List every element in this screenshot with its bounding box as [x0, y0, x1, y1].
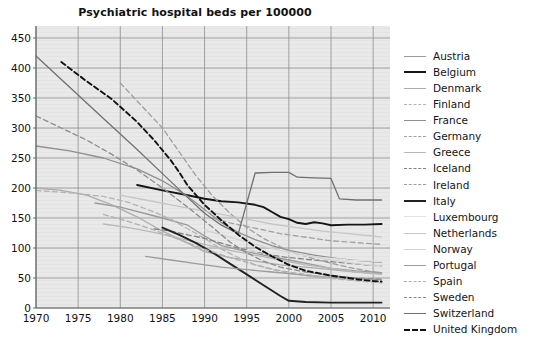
legend-item-label: Ireland: [433, 180, 469, 191]
legend-item-label: United Kingdom: [433, 324, 517, 335]
legend-item-finland[interactable]: Finland: [404, 96, 541, 112]
legend-swatch-icon: [404, 281, 426, 282]
legend-item-label: Italy: [433, 196, 456, 207]
legend-item-luxembourg[interactable]: Luxembourg: [404, 209, 541, 225]
legend-swatch-icon: [404, 329, 426, 331]
legend-swatch-icon: [404, 313, 426, 314]
legend-item-sweden[interactable]: Sweden: [404, 289, 541, 305]
legend-item-denmark[interactable]: Denmark: [404, 80, 541, 96]
legend-item-italy[interactable]: Italy: [404, 193, 541, 209]
y-tick-label: 200: [11, 182, 31, 194]
legend-item-austria[interactable]: Austria: [404, 48, 541, 64]
legend-swatch-icon: [404, 297, 426, 298]
legend-swatch-icon: [404, 71, 426, 73]
legend-item-label: Finland: [433, 99, 471, 110]
legend-item-label: Portugal: [433, 260, 477, 271]
legend-swatch-icon: [404, 249, 426, 250]
legend-item-label: Switzerland: [433, 308, 494, 319]
legend-item-label: Greece: [433, 147, 470, 158]
y-tick-label: 50: [18, 272, 31, 284]
legend-item-netherlands[interactable]: Netherlands: [404, 225, 541, 241]
x-tick-label: 2000: [275, 312, 302, 324]
legend-swatch-icon: [404, 88, 426, 89]
legend-item-label: Norway: [433, 244, 473, 255]
legend-item-france[interactable]: France: [404, 112, 541, 128]
legend-item-label: Austria: [433, 51, 470, 62]
legend-swatch-icon: [404, 233, 426, 234]
legend-swatch-icon: [404, 216, 426, 217]
legend-item-label: Sweden: [433, 292, 475, 303]
legend-item-switzerland[interactable]: Switzerland: [404, 306, 541, 322]
legend-swatch-icon: [404, 136, 426, 137]
legend-item-iceland[interactable]: Iceland: [404, 161, 541, 177]
legend-item-belgium[interactable]: Belgium: [404, 64, 541, 80]
legend-item-label: Luxembourg: [433, 212, 498, 223]
legend-item-greece[interactable]: Greece: [404, 145, 541, 161]
x-tick-label: 2010: [360, 312, 387, 324]
legend-swatch-icon: [404, 168, 426, 169]
legend-swatch-icon: [404, 200, 426, 202]
legend-swatch-icon: [404, 152, 426, 153]
legend-swatch-icon: [404, 120, 426, 121]
legend-swatch-icon: [404, 265, 426, 266]
legend-item-label: Belgium: [433, 67, 476, 78]
x-tick-label: 2005: [318, 312, 345, 324]
legend-item-label: Iceland: [433, 163, 471, 174]
y-axis-tick-labels: 050100150200250300350400450: [11, 32, 36, 314]
y-tick-label: 350: [11, 92, 31, 104]
y-tick-label: 300: [11, 122, 31, 134]
y-tick-label: 400: [11, 62, 31, 74]
chart-legend: AustriaBelgiumDenmarkFinlandFranceGerman…: [404, 48, 541, 338]
x-tick-label: 1995: [233, 312, 260, 324]
legend-item-united-kingdom[interactable]: United Kingdom: [404, 322, 541, 338]
legend-item-label: Denmark: [433, 83, 481, 94]
y-tick-label: 150: [11, 212, 31, 224]
legend-item-norway[interactable]: Norway: [404, 241, 541, 257]
x-tick-label: 1985: [149, 312, 176, 324]
legend-item-label: Germany: [433, 131, 481, 142]
legend-item-label: Netherlands: [433, 228, 497, 239]
y-tick-label: 450: [11, 32, 31, 44]
x-tick-label: 1990: [191, 312, 218, 324]
legend-item-label: Spain: [433, 276, 462, 287]
x-axis-tick-labels: 197019751980198519901995200020052010: [23, 312, 387, 324]
legend-item-portugal[interactable]: Portugal: [404, 257, 541, 273]
y-tick-label: 100: [11, 242, 31, 254]
legend-item-germany[interactable]: Germany: [404, 128, 541, 144]
legend-swatch-icon: [404, 104, 426, 105]
legend-item-ireland[interactable]: Ireland: [404, 177, 541, 193]
legend-swatch-icon: [404, 184, 426, 185]
y-tick-label: 250: [11, 152, 31, 164]
legend-item-spain[interactable]: Spain: [404, 273, 541, 289]
x-tick-label: 1980: [107, 312, 134, 324]
legend-swatch-icon: [404, 56, 426, 57]
x-tick-label: 1975: [65, 312, 92, 324]
x-tick-label: 1970: [23, 312, 50, 324]
legend-item-label: France: [433, 115, 468, 126]
